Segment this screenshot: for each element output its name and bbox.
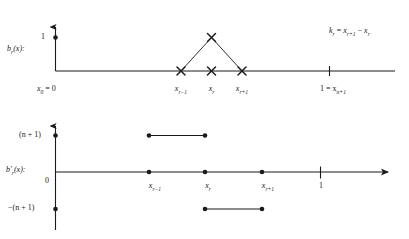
top-x-tick-label-x-r: xr bbox=[209, 85, 215, 95]
bottom-y-tick-label-negative: −(n + 1) bbox=[8, 204, 34, 212]
zero-endpoint-at-x-r bbox=[203, 170, 208, 175]
spacing-formula-annotation: kr = xr+1 − xr bbox=[329, 27, 370, 37]
step-endpoint-positive-left bbox=[147, 133, 152, 138]
top-x-tick-label-x-r-minus-1: xr−1 bbox=[175, 85, 187, 95]
bottom-plot-group bbox=[53, 126, 388, 230]
bottom-x-tick-label-x-r: xr bbox=[205, 182, 211, 192]
bottom-y-tick-pos-dot bbox=[53, 133, 58, 138]
top-x-tick-label-x0: x0 = 0 bbox=[37, 85, 56, 95]
bottom-y-tick-label-positive: (n + 1) bbox=[19, 131, 41, 139]
bottom-y-tick-neg-dot bbox=[53, 207, 58, 212]
top-x-tick-label-one-equals-xn1: 1 = xn+1 bbox=[320, 85, 346, 95]
bottom-x-tick-label-one: 1 bbox=[319, 182, 323, 190]
step-endpoint-negative-right bbox=[260, 207, 265, 212]
bottom-y-axis-label: b′r(x): bbox=[6, 166, 25, 176]
top-y-tick-1-dot bbox=[53, 35, 58, 40]
bottom-x-tick-label-x-r-plus-1: xr+1 bbox=[262, 182, 274, 192]
bottom-y-tick-label-zero: 0 bbox=[45, 177, 49, 185]
top-x-tick-label-x-r-plus-1: xr+1 bbox=[236, 85, 248, 95]
step-endpoint-positive-right bbox=[203, 133, 208, 138]
zero-endpoint-at-x-r-plus-1 bbox=[260, 170, 265, 175]
zero-endpoint-at-x-r-minus-1 bbox=[147, 170, 152, 175]
top-y-axis-label: br(x): bbox=[7, 45, 25, 55]
step-endpoint-negative-left bbox=[203, 207, 208, 212]
bottom-x-tick-label-x-r-minus-1: xr−1 bbox=[149, 182, 161, 192]
cross-marker-apex bbox=[208, 34, 216, 42]
top-y-tick-label-1: 1 bbox=[41, 33, 45, 41]
figure-container: br(x): 1 x0 = 0 xr−1 xr xr+1 1 = xn+1 kr… bbox=[0, 0, 409, 239]
hat-function-curve bbox=[181, 38, 242, 72]
